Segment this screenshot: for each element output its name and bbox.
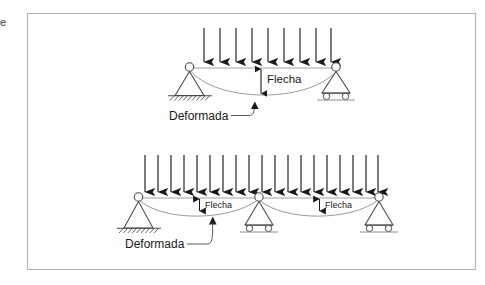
support-hinge-node [332,63,340,71]
support-hinge-node [185,63,193,71]
flecha-label-bottom-left: Flecha [205,200,232,210]
support-hinge-node [375,193,383,201]
flecha-label-bottom-right: Flecha [325,200,352,210]
roller-wheel [385,225,391,231]
roller-wheel [323,93,329,99]
beam-deflection-diagram: Flecha Deformada [0,0,485,285]
deformada-label-top: Deformada [169,109,229,123]
deformada-label-bottom: Deformada [125,237,185,251]
support-hinge-node [134,193,142,201]
flecha-label-top: Flecha [267,73,302,85]
support-hinge-node [255,193,263,201]
roller-wheel [342,93,348,99]
roller-wheel [265,225,271,231]
roller-wheel [366,225,372,231]
figure-root: e [0,0,485,285]
roller-wheel [246,225,252,231]
